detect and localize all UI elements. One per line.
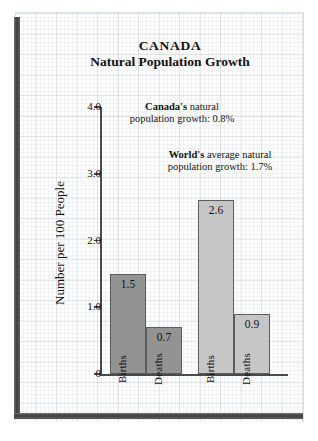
bar-category-label: Births bbox=[204, 355, 216, 383]
x-axis-line bbox=[100, 374, 288, 376]
y-axis-tick-label: 0 bbox=[61, 367, 101, 379]
bar-category-label: Deaths bbox=[240, 353, 252, 385]
bar-value-label: 0.7 bbox=[147, 331, 181, 343]
bar-category-label: Deaths bbox=[152, 353, 164, 385]
bar-world-deaths: 0.9Deaths bbox=[234, 314, 270, 374]
y-axis-tick-label: 4.0 bbox=[61, 100, 101, 112]
bar-canada-deaths: 0.7Deaths bbox=[146, 327, 182, 374]
bar-value-label: 0.9 bbox=[235, 318, 269, 330]
bar-canada-births: 1.5Births bbox=[110, 274, 146, 374]
bar-value-label: 2.6 bbox=[199, 204, 233, 216]
bar-world-births: 2.6Births bbox=[198, 200, 234, 374]
plot-area: 4.03.02.01.00 Number per 100 People 1.5B… bbox=[0, 0, 318, 441]
bar-value-label: 1.5 bbox=[111, 278, 145, 290]
y-axis-title: Number per 100 People bbox=[52, 143, 68, 343]
chart-figure: CANADA Natural Population Growth Canada'… bbox=[0, 0, 318, 441]
bar-category-label: Births bbox=[116, 355, 128, 383]
